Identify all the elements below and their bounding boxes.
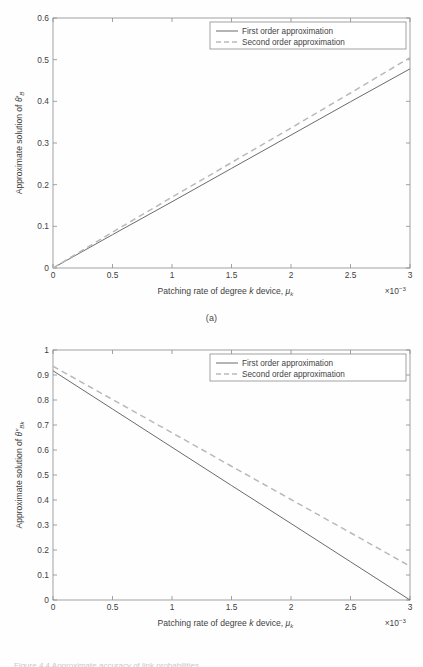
svg-text:Approximate solution of θ″Bk: Approximate solution of θ″Bk xyxy=(14,421,25,529)
y-tick-label: 0.6 xyxy=(37,445,49,455)
y-tick-label: 0.1 xyxy=(37,570,49,580)
legend: First order approximationSecond order ap… xyxy=(210,22,406,49)
svg-text:Patching rate of degree k devi: Patching rate of degree k device, μk xyxy=(158,618,295,629)
svg-text:Approximate solution of θ′B: Approximate solution of θ′B xyxy=(14,92,25,195)
y-tick-label: 0.2 xyxy=(37,545,49,555)
x-tick-label: 1.5 xyxy=(226,270,238,280)
y-tick-label: 0.5 xyxy=(37,55,49,65)
x-tick-label: 0.5 xyxy=(107,602,119,612)
y-tick-label: 0.4 xyxy=(37,495,49,505)
series-line-second-order xyxy=(53,58,410,268)
x-axis-label: Patching rate of degree k device, μk xyxy=(158,618,295,629)
y-tick-label: 0.3 xyxy=(37,138,49,148)
svg-text:×10−3: ×10−3 xyxy=(385,285,407,296)
y-tick-label: 0.2 xyxy=(37,180,49,190)
y-axis-label: Approximate solution of θ″Bk xyxy=(14,421,25,529)
x-tick-label: 2.5 xyxy=(345,270,357,280)
plot-frame xyxy=(53,18,410,268)
y-tick-label: 0.1 xyxy=(37,221,49,231)
legend-label-second-order: Second order approximation xyxy=(242,370,345,379)
x-tick-label: 1 xyxy=(170,602,175,612)
y-tick-label: 0.4 xyxy=(37,96,49,106)
series-line-first-order xyxy=(53,69,410,268)
y-tick-label: 0.7 xyxy=(37,420,49,430)
x-axis-multiplier: ×10−3 xyxy=(385,617,407,628)
y-tick-label: 0.3 xyxy=(37,520,49,530)
x-tick-label: 2.5 xyxy=(345,602,357,612)
y-axis-label: Approximate solution of θ′B xyxy=(14,92,25,195)
svg-text:×10−3: ×10−3 xyxy=(385,617,407,628)
x-tick-label: 2 xyxy=(289,270,294,280)
y-tick-label: 0.6 xyxy=(37,13,49,23)
x-tick-label: 0.5 xyxy=(107,270,119,280)
y-tick-label: 0 xyxy=(44,263,49,273)
y-tick-label: 0.9 xyxy=(37,370,49,380)
x-axis-label: Patching rate of degree k device, μk xyxy=(158,286,295,297)
chart-b-svg: 00.511.522.5300.10.20.30.40.50.60.70.80.… xyxy=(0,338,423,667)
y-tick-label: 1 xyxy=(44,345,49,355)
x-tick-label: 1 xyxy=(170,270,175,280)
figure-footnote: Figure 4.4 Approximate accuracy of link … xyxy=(14,661,414,667)
legend: First order approximationSecond order ap… xyxy=(210,354,406,381)
chart-panel-a: 00.511.522.5300.10.20.30.40.50.6Patching… xyxy=(0,0,423,336)
x-tick-label: 3 xyxy=(408,602,413,612)
y-tick-label: 0 xyxy=(44,595,49,605)
plot-frame xyxy=(53,350,410,600)
x-tick-label: 2 xyxy=(289,602,294,612)
y-tick-label: 0.8 xyxy=(37,395,49,405)
chart-panel-b: 00.511.522.5300.10.20.30.40.50.60.70.80.… xyxy=(0,338,423,667)
x-tick-label: 0 xyxy=(51,602,56,612)
chart-a-svg: 00.511.522.5300.10.20.30.40.50.6Patching… xyxy=(0,0,423,336)
legend-label-second-order: Second order approximation xyxy=(242,38,345,47)
svg-text:Patching rate of degree k devi: Patching rate of degree k device, μk xyxy=(158,286,295,297)
figure-page: 00.511.522.5300.10.20.30.40.50.6Patching… xyxy=(0,0,423,667)
x-tick-label: 0 xyxy=(51,270,56,280)
y-tick-label: 0.5 xyxy=(37,470,49,480)
panel-a-caption: (a) xyxy=(0,313,423,323)
legend-label-first-order: First order approximation xyxy=(242,359,333,368)
series-line-first-order xyxy=(53,371,410,600)
series-line-second-order xyxy=(53,366,410,566)
x-axis-multiplier: ×10−3 xyxy=(385,285,407,296)
x-tick-label: 1.5 xyxy=(226,602,238,612)
x-tick-label: 3 xyxy=(408,270,413,280)
legend-label-first-order: First order approximation xyxy=(242,27,333,36)
